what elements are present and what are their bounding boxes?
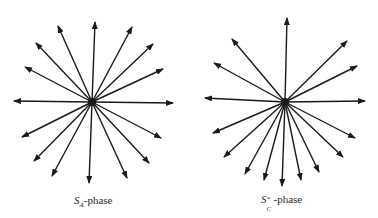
director-arrow (92, 44, 153, 102)
sc-suffix: -phase (274, 193, 303, 205)
director-arrow (285, 102, 319, 172)
director-arrow (214, 63, 285, 102)
director-arrow (285, 102, 343, 157)
director-arrow (224, 102, 285, 157)
director-arrow (36, 43, 92, 102)
sa-phase-director-diagram (14, 22, 173, 183)
director-arrow (92, 22, 95, 102)
director-arrow (285, 102, 355, 138)
director-arrow (285, 102, 301, 180)
director-arrow (58, 26, 92, 102)
director-arrow (25, 67, 92, 102)
phase-diagrams (0, 0, 378, 218)
center-dot (88, 98, 96, 106)
director-arrow (285, 66, 357, 102)
director-arrow (205, 98, 285, 102)
director-arrow (92, 27, 132, 102)
director-arrow (22, 102, 92, 137)
sc-superscript: * (267, 195, 271, 203)
director-arrow (213, 102, 285, 133)
director-arrow (245, 102, 285, 174)
director-arrow (232, 39, 285, 102)
director-arrow (92, 102, 161, 138)
director-arrow (285, 41, 347, 102)
sa-phase-label: SA-phase (74, 194, 113, 209)
director-arrow (14, 101, 92, 102)
director-arrow (52, 102, 92, 176)
sc-subscript: C (267, 205, 272, 213)
director-arrow (34, 102, 92, 161)
director-arrow (282, 102, 285, 186)
director-arrow (285, 18, 287, 102)
director-arrow (92, 69, 163, 102)
director-arrow (285, 101, 365, 102)
center-dot (281, 98, 289, 106)
director-arrow (92, 102, 127, 178)
sc-star-phase-label: S*C-phase (261, 193, 302, 205)
director-arrow (92, 102, 149, 163)
director-arrow (92, 102, 173, 103)
director-arrow (264, 102, 285, 180)
sc-star-phase-director-diagram (205, 18, 365, 186)
sa-suffix: -phase (84, 194, 113, 206)
director-arrow (89, 102, 92, 183)
